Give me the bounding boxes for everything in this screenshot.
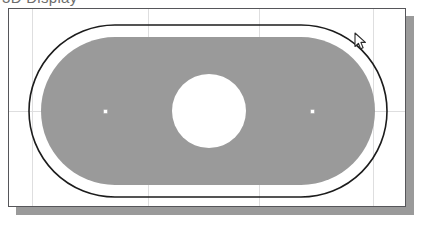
point-marker-left[interactable]	[104, 110, 107, 113]
clipped-header-text: 3D Display	[2, 0, 78, 6]
canvas-surface[interactable]	[9, 9, 405, 206]
point-marker-right[interactable]	[311, 110, 314, 113]
application-screen: 3D Display	[0, 0, 423, 227]
drawing-canvas[interactable]	[8, 8, 406, 207]
point-marker-center[interactable]	[208, 110, 211, 113]
clipped-header-text-strip: 3D Display	[0, 0, 423, 8]
profile-geometry[interactable]	[9, 9, 406, 207]
